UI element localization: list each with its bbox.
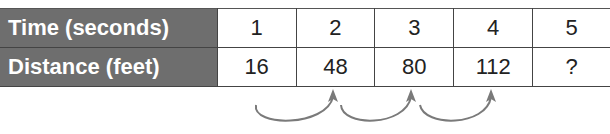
time-cell: 4	[454, 9, 533, 48]
time-cell: 1	[217, 9, 296, 48]
distance-cell: 48	[296, 48, 375, 87]
time-cell: 3	[375, 9, 454, 48]
pattern-arrows	[0, 85, 610, 134]
time-cell: 5	[533, 9, 610, 48]
curved-arrow-icon	[420, 97, 491, 121]
row-header-time: Time (seconds)	[0, 9, 217, 48]
distance-cell: 16	[217, 48, 296, 87]
table-row-distance: Distance (feet) 16 48 80 112 ?	[0, 48, 610, 87]
distance-cell: 112	[454, 48, 533, 87]
time-cell: 2	[296, 9, 375, 48]
row-header-distance: Distance (feet)	[0, 48, 217, 87]
curved-arrow-icon	[341, 97, 411, 121]
time-distance-table: Time (seconds) 1 2 3 4 5 Distance (feet)…	[0, 8, 610, 87]
distance-cell-unknown: ?	[533, 48, 610, 87]
table-row-time: Time (seconds) 1 2 3 4 5	[0, 9, 610, 48]
curved-arrow-icon	[256, 97, 333, 121]
distance-cell: 80	[375, 48, 454, 87]
